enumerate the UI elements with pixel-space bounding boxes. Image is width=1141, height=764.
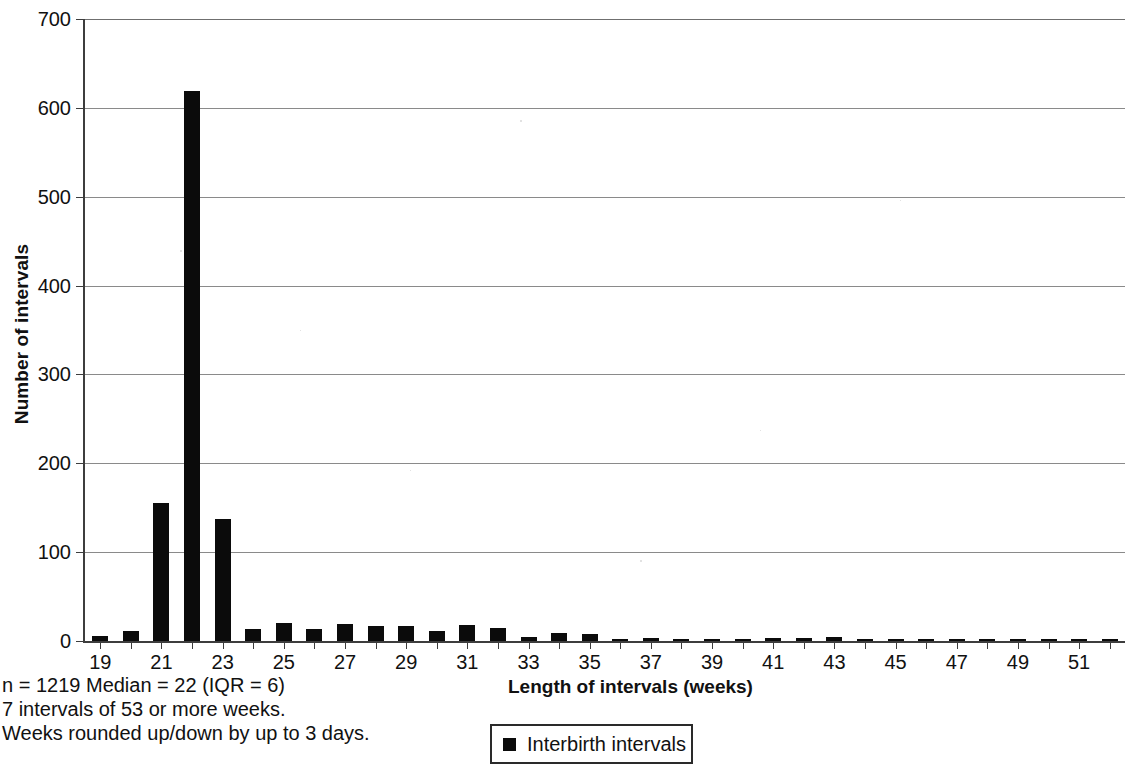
x-tick-mark-26	[314, 641, 315, 649]
chart-legend: Interbirth intervals	[490, 724, 693, 764]
x-tick-mark-36	[620, 641, 621, 649]
x-tick-mark-41	[773, 641, 774, 649]
x-tick-mark-52	[1110, 641, 1111, 649]
caption-line-2: 7 intervals of 53 or more weeks.	[2, 698, 285, 721]
y-tick-mark-0	[76, 641, 85, 642]
x-tick-mark-19	[100, 641, 101, 649]
x-tick-mark-29	[406, 641, 407, 649]
y-tick-label-600: 600	[38, 96, 71, 119]
bar	[123, 631, 139, 641]
y-tick-mark-500	[76, 197, 85, 198]
gridline-700	[85, 19, 1125, 20]
gridline-100	[85, 552, 1125, 553]
x-tick-mark-48	[987, 641, 988, 649]
x-tick-mark-38	[681, 641, 682, 649]
x-tick-mark-25	[284, 641, 285, 649]
x-tick-mark-27	[345, 641, 346, 649]
gridline-200	[85, 463, 1125, 464]
x-tick-label-19: 19	[89, 651, 111, 674]
x-tick-mark-33	[529, 641, 530, 649]
bar	[337, 624, 353, 641]
x-tick-label-43: 43	[823, 651, 845, 674]
x-tick-label-45: 45	[884, 651, 906, 674]
x-tick-mark-35	[590, 641, 591, 649]
y-tick-label-300: 300	[38, 363, 71, 386]
y-tick-mark-600	[76, 108, 85, 109]
x-tick-mark-24	[253, 641, 254, 649]
x-tick-label-39: 39	[701, 651, 723, 674]
bar	[184, 91, 200, 641]
x-tick-label-29: 29	[395, 651, 417, 674]
y-tick-label-400: 400	[38, 274, 71, 297]
x-tick-label-27: 27	[334, 651, 356, 674]
y-tick-mark-400	[76, 286, 85, 287]
y-tick-mark-100	[76, 552, 85, 553]
x-tick-label-51: 51	[1068, 651, 1090, 674]
x-tick-mark-20	[131, 641, 132, 649]
y-tick-mark-700	[76, 19, 85, 20]
x-tick-mark-45	[896, 641, 897, 649]
caption-line-1: n = 1219 Median = 22 (IQR = 6)	[2, 674, 285, 697]
bar	[429, 631, 445, 641]
legend-swatch-icon	[503, 738, 516, 751]
x-tick-mark-50	[1049, 641, 1050, 649]
x-tick-label-37: 37	[640, 651, 662, 674]
x-tick-mark-49	[1018, 641, 1019, 649]
x-tick-label-25: 25	[273, 651, 295, 674]
legend-label-interbirth-intervals: Interbirth intervals	[527, 733, 686, 756]
y-tick-mark-300	[76, 374, 85, 375]
gridline-600	[85, 108, 1125, 109]
x-tick-label-41: 41	[762, 651, 784, 674]
bar	[490, 628, 506, 641]
caption-line-3: Weeks rounded up/down by up to 3 days.	[2, 722, 370, 745]
y-tick-label-100: 100	[38, 541, 71, 564]
x-tick-mark-32	[498, 641, 499, 649]
y-tick-mark-200	[76, 463, 85, 464]
x-tick-mark-22	[192, 641, 193, 649]
x-tick-label-33: 33	[517, 651, 539, 674]
x-tick-mark-21	[161, 641, 162, 649]
x-tick-mark-51	[1079, 641, 1080, 649]
y-tick-label-200: 200	[38, 452, 71, 475]
x-tick-mark-44	[865, 641, 866, 649]
x-tick-mark-28	[376, 641, 377, 649]
bar	[245, 629, 261, 641]
x-tick-label-23: 23	[212, 651, 234, 674]
x-tick-label-31: 31	[456, 651, 478, 674]
x-tick-label-49: 49	[1007, 651, 1029, 674]
x-tick-mark-37	[651, 641, 652, 649]
bar	[306, 629, 322, 641]
x-tick-mark-46	[926, 641, 927, 649]
bar	[459, 625, 475, 641]
bar	[276, 623, 292, 641]
gridline-300	[85, 374, 1125, 375]
x-tick-mark-47	[957, 641, 958, 649]
x-tick-label-47: 47	[946, 651, 968, 674]
y-axis-title: Number of intervals	[11, 204, 33, 464]
x-tick-mark-42	[804, 641, 805, 649]
bar	[215, 519, 231, 641]
x-tick-mark-39	[712, 641, 713, 649]
x-tick-label-21: 21	[150, 651, 172, 674]
bar	[398, 626, 414, 641]
x-axis-title: Length of intervals (weeks)	[508, 676, 753, 698]
x-tick-label-35: 35	[579, 651, 601, 674]
x-tick-mark-31	[467, 641, 468, 649]
y-tick-label-0: 0	[60, 630, 71, 653]
x-tick-mark-34	[559, 641, 560, 649]
x-tick-mark-43	[834, 641, 835, 649]
bar	[551, 633, 567, 641]
bar	[153, 503, 169, 641]
y-tick-label-500: 500	[38, 185, 71, 208]
x-tick-mark-23	[223, 641, 224, 649]
bar	[368, 626, 384, 641]
gridline-500	[85, 197, 1125, 198]
x-tick-mark-30	[437, 641, 438, 649]
bar	[582, 634, 598, 641]
y-tick-label-700: 700	[38, 8, 71, 31]
gridline-400	[85, 286, 1125, 287]
plot-area: 0100200300400500600700 19212325272931333…	[83, 19, 1125, 643]
x-tick-mark-40	[743, 641, 744, 649]
